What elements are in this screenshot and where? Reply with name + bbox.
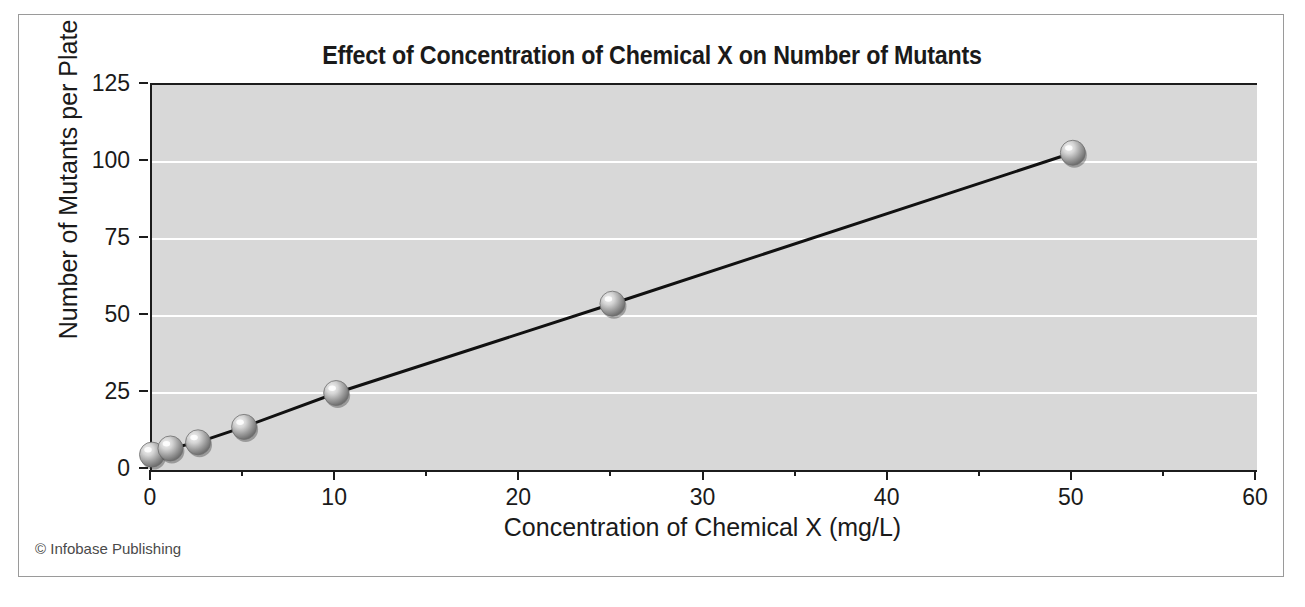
x-tick-10 [333, 470, 335, 480]
data-point [324, 381, 351, 409]
x-tick-20 [517, 470, 519, 480]
copyright-notice: © Infobase Publishing [35, 540, 181, 557]
y-tick-25 [139, 390, 148, 392]
y-tick-label-100: 100 [40, 147, 130, 174]
y-tick-50 [139, 313, 148, 315]
x-tick-label-60: 60 [1215, 484, 1295, 511]
y-tick-75 [139, 236, 148, 238]
chart-title: Effect of Concentration of Chemical X on… [63, 41, 1240, 70]
x-tick-40 [886, 470, 888, 480]
x-tick-label-50: 50 [1031, 484, 1111, 511]
x-tick-label-30: 30 [663, 484, 743, 511]
x-tick-label-10: 10 [294, 484, 374, 511]
x-tick-45 [978, 470, 980, 476]
x-tick-60 [1254, 470, 1256, 480]
x-tick-25 [609, 470, 611, 476]
x-tick-0 [149, 470, 151, 480]
y-tick-label-125: 125 [40, 70, 130, 97]
data-point [600, 291, 627, 319]
data-point [232, 414, 259, 442]
y-tick-100 [139, 159, 148, 161]
x-tick-label-20: 20 [478, 484, 558, 511]
y-tick-0 [139, 467, 148, 469]
y-tick-label-75: 75 [40, 224, 130, 251]
y-tick-label-0: 0 [40, 455, 130, 482]
x-tick-50 [1070, 470, 1072, 480]
x-tick-55 [1162, 470, 1164, 476]
y-tick-125 [139, 82, 148, 84]
data-markers [140, 140, 1087, 469]
chart-frame: Effect of Concentration of Chemical X on… [18, 14, 1284, 577]
x-axis-title: Concentration of Chemical X (mg/L) [150, 513, 1255, 542]
x-tick-30 [702, 470, 704, 480]
y-tick-label-50: 50 [40, 301, 130, 328]
plot-area [150, 83, 1257, 472]
y-tick-label-25: 25 [40, 378, 130, 405]
data-series-layer [152, 85, 1257, 470]
data-point [186, 430, 213, 458]
data-point [1060, 140, 1087, 168]
x-tick-5 [241, 470, 243, 476]
x-tick-label-40: 40 [847, 484, 927, 511]
x-tick-label-0: 0 [110, 484, 190, 511]
x-tick-15 [425, 470, 427, 476]
x-tick-35 [794, 470, 796, 476]
